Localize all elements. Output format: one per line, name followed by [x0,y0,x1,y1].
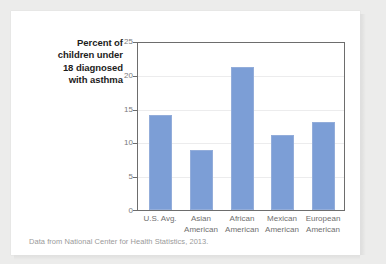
y-tick-label: 20 [115,72,133,80]
y-tick-label: 15 [115,106,133,114]
y-axis-title-line-4: with asthma [15,74,123,86]
x-tick-label-european-american: European American [291,214,355,235]
bar-us-avg [149,115,172,211]
y-axis-title-line-1: Percent of [15,37,123,49]
plot-area [137,42,345,211]
y-axis-title: Percent of children under 18 diagnosed w… [15,37,123,87]
y-axis-tick-labels: 25 20 15 10 5 0 [112,42,133,211]
card-shadow-bottom [14,255,360,260]
bar-mexican-american [271,135,294,211]
y-tick-label: 5 [115,173,133,181]
bar-african-american [231,67,254,210]
page-background: Percent of children under 18 diagnosed w… [0,0,386,264]
bar-asian-american [190,150,213,210]
plot-inner [138,43,344,210]
card-shadow-right [360,14,366,255]
x-tick-label-line: European [291,214,355,225]
source-caption: Data from National Center for Health Sta… [29,237,208,246]
y-axis-title-line-3: 18 diagnosed [15,62,123,74]
y-axis-title-line-2: children under [15,49,123,61]
bar-chart-figure: Percent of children under 18 diagnosed w… [11,11,360,255]
bar-european-american [312,122,335,210]
figure-card: Percent of children under 18 diagnosed w… [11,11,360,255]
x-tick-label-line: American [291,225,355,236]
y-tick-label: 25 [115,38,133,46]
y-tick-label: 10 [115,139,133,147]
